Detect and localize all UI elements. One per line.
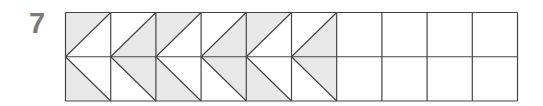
fraction-grid xyxy=(0,0,543,106)
